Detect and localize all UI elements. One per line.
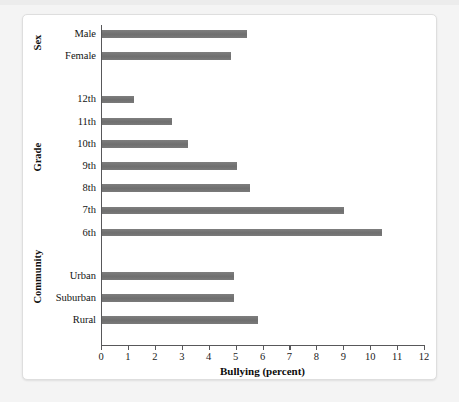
x-axis-tick-label: 4 — [197, 351, 221, 362]
bar — [102, 316, 258, 324]
x-axis-tick-label: 10 — [358, 351, 382, 362]
chart-card: 0123456789101112 MaleFemale12th11th10th9… — [22, 14, 437, 380]
x-axis-tick-label: 11 — [385, 351, 409, 362]
group-title-text: Community — [32, 288, 43, 304]
x-axis-tick — [289, 345, 290, 350]
x-axis-tick-label: 0 — [89, 351, 113, 362]
bar — [102, 96, 134, 104]
bar-category-label: 8th — [27, 183, 101, 193]
group-axis-title: Sex — [29, 37, 45, 53]
bar — [102, 184, 250, 192]
x-axis-tick — [397, 345, 398, 350]
x-axis-title: Bullying (percent) — [101, 365, 424, 377]
x-axis-tick-label: 2 — [143, 351, 167, 362]
x-axis-tick — [316, 345, 317, 350]
bar — [102, 118, 172, 126]
bar — [102, 162, 237, 170]
x-axis-tick-label: 12 — [412, 351, 436, 362]
bar-category-label: 11th — [27, 117, 101, 127]
x-axis-tick — [370, 345, 371, 350]
x-axis-tick — [155, 345, 156, 350]
x-axis-tick-label: 1 — [116, 351, 140, 362]
group-axis-title: Community — [29, 290, 45, 306]
bar — [102, 207, 344, 215]
bar-category-label: 12th — [27, 94, 101, 104]
x-axis-tick — [263, 345, 264, 350]
group-axis-title: Grade — [29, 158, 45, 174]
x-axis-tick — [424, 345, 425, 350]
x-axis-tick-label: 5 — [224, 351, 248, 362]
group-title-text: Grade — [32, 156, 43, 172]
bar — [102, 229, 382, 237]
bar — [102, 52, 231, 60]
x-axis-tick — [343, 345, 344, 350]
x-axis-tick-label: 6 — [251, 351, 275, 362]
bar — [102, 30, 247, 38]
x-axis-tick — [182, 345, 183, 350]
bar-category-label: 7th — [27, 205, 101, 215]
x-axis-tick — [101, 345, 102, 350]
bar — [102, 294, 234, 302]
x-axis-tick — [209, 345, 210, 350]
x-axis-tick-label: 8 — [304, 351, 328, 362]
x-axis-tick-label: 3 — [170, 351, 194, 362]
group-title-text: Sex — [32, 35, 43, 51]
bar — [102, 272, 234, 280]
bar-category-label: Rural — [27, 315, 101, 325]
bar — [102, 140, 188, 148]
x-axis-tick — [236, 345, 237, 350]
x-axis-tick-label: 9 — [331, 351, 355, 362]
bar-category-label: 6th — [27, 228, 101, 238]
bar-chart-plot: 0123456789101112 MaleFemale12th11th10th9… — [23, 15, 436, 379]
x-axis-tick-label: 7 — [277, 351, 301, 362]
x-axis-tick — [128, 345, 129, 350]
